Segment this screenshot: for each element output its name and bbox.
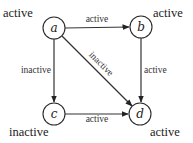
node-d-state: active <box>150 125 180 139</box>
edge-a-b: active <box>65 14 129 28</box>
edge-label-b-d: active <box>144 65 167 75</box>
arrow-a-to-d <box>62 36 132 106</box>
edge-label-a-b: active <box>86 14 109 24</box>
state-graph-diagram: active inactive inactive active active a… <box>0 0 193 143</box>
edge-a-d: inactive <box>62 36 132 106</box>
node-c-label: c <box>51 107 58 121</box>
node-d: d active <box>129 103 180 139</box>
node-a-state: active <box>3 6 33 20</box>
node-c-state: inactive <box>9 125 49 139</box>
node-a-label: a <box>50 21 57 35</box>
node-b: b active <box>130 6 183 38</box>
node-d-label: d <box>136 107 144 121</box>
edge-c-d: active <box>65 114 128 124</box>
edge-b-d: active <box>141 38 167 102</box>
node-b-state: active <box>153 6 183 20</box>
edge-label-a-d: inactive <box>87 50 115 78</box>
node-b-label: b <box>137 20 145 34</box>
node-a: a active <box>3 6 65 39</box>
edge-label-c-d: active <box>86 114 109 124</box>
arrow-a-to-b <box>65 27 129 28</box>
node-c: c inactive <box>9 103 65 139</box>
edge-label-a-c: inactive <box>21 65 51 75</box>
edge-a-c: inactive <box>21 39 54 102</box>
